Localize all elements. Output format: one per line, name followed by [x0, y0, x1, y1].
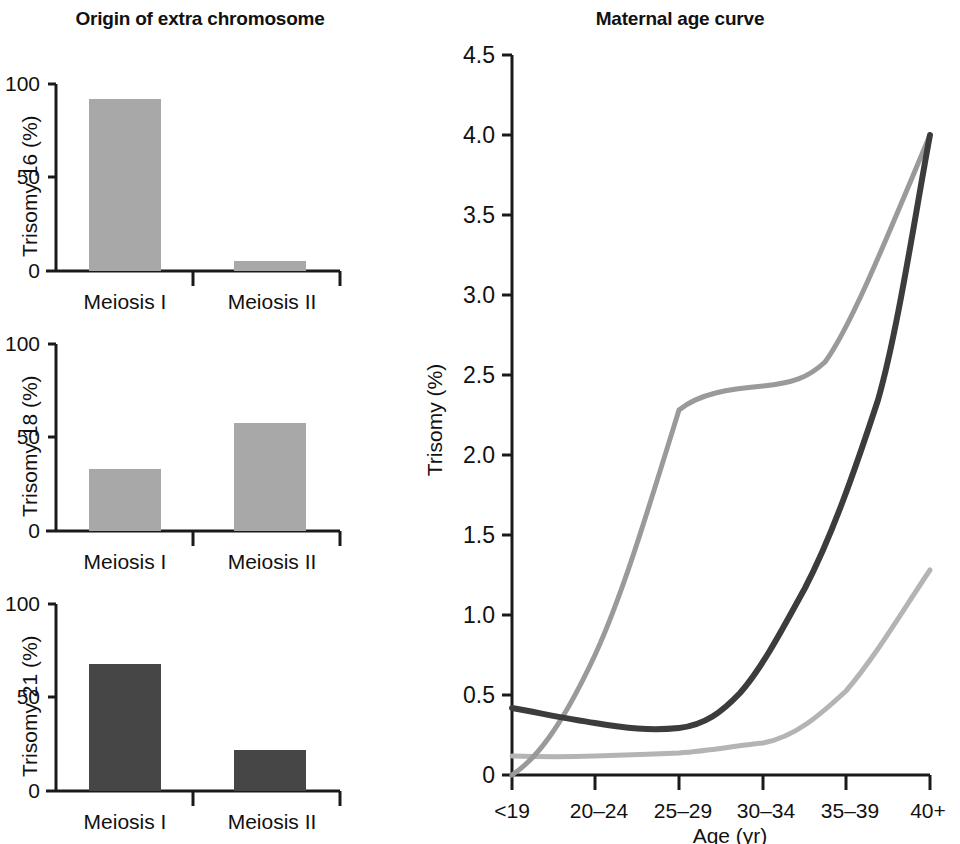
bar-chart-trisomy16: 0 50 100 Meiosis I Meiosis II Trisomy 16…: [0, 52, 400, 312]
panel-origin-of-extra-chromosome: Origin of extra chromosome 0 50 100 Meio…: [0, 0, 400, 844]
bar-chart-trisomy18: 0 50 100 Meiosis I Meiosis II Trisomy 18…: [0, 312, 400, 572]
y-axis-label-trisomy: Trisomy (%): [423, 364, 446, 476]
bar-meiosis-2: [234, 423, 306, 531]
ytick-label-4-0: 4.0: [463, 122, 495, 148]
ytick-label-1-5: 1.5: [463, 522, 495, 548]
ytick-label-3-0: 3.0: [463, 282, 495, 308]
bar-chart-trisomy21-svg: 0 50 100 Meiosis I Meiosis II: [0, 572, 400, 832]
y-axis-label-trisomy16: Trisomy 16 (%): [18, 115, 42, 257]
xtick-label-30-34: 30–34: [737, 799, 796, 822]
category-label-meiosis-1: Meiosis I: [84, 550, 167, 572]
bar-chart-trisomy18-svg: 0 50 100 Meiosis I Meiosis II: [0, 312, 400, 572]
curve-dark: [512, 135, 930, 729]
panel-title-maternal: Maternal age curve: [400, 8, 960, 30]
bar-chart-trisomy21: 0 50 100 Meiosis I Meiosis II Trisomy 21…: [0, 572, 400, 832]
xtick-label-25-29: 25–29: [654, 799, 712, 822]
curve-pale: [512, 570, 930, 757]
ytick-label-0: 0: [28, 259, 40, 282]
y-axis-label-trisomy21: Trisomy 21 (%): [18, 635, 42, 777]
figure-root: Origin of extra chromosome 0 50 100 Meio…: [0, 0, 960, 844]
ytick-label-0: 0: [482, 762, 495, 788]
xtick-label-40plus: 40+: [910, 799, 946, 822]
ytick-label-100: 100: [5, 72, 40, 95]
ytick-label-0-5: 0.5: [463, 682, 495, 708]
ytick-label-2-5: 2.5: [463, 362, 495, 388]
ytick-label-0: 0: [28, 779, 40, 802]
line-chart-maternal-age-svg: 4.5 4.0 3.5 3.0 2.5 2.0 1.5 1.0 0.5 0: [400, 0, 960, 844]
panel-maternal-age-curve: Maternal age curve 4.5 4.0 3.5 3.0 2.5 2…: [400, 0, 960, 844]
category-label-meiosis-2: Meiosis II: [228, 290, 317, 312]
xtick-label-35-39: 35–39: [821, 799, 879, 822]
ytick-label-4-5: 4.5: [463, 42, 495, 68]
y-axis-label-trisomy18: Trisomy 18 (%): [18, 375, 42, 517]
bar-meiosis-2: [234, 261, 306, 271]
ytick-label-3-5: 3.5: [463, 202, 495, 228]
bar-meiosis-1: [89, 469, 161, 531]
panel-title-origin: Origin of extra chromosome: [0, 8, 418, 30]
category-label-meiosis-1: Meiosis I: [84, 810, 167, 832]
category-label-meiosis-2: Meiosis II: [228, 550, 317, 572]
ytick-label-100: 100: [5, 592, 40, 615]
curve-mid: [512, 135, 930, 775]
ytick-label-100: 100: [5, 332, 40, 355]
ytick-label-2-0: 2.0: [463, 442, 495, 468]
category-label-meiosis-1: Meiosis I: [84, 290, 167, 312]
x-axis-label-age: Age (yr): [693, 824, 768, 844]
ytick-label-0: 0: [28, 519, 40, 542]
ytick-label-1-0: 1.0: [463, 602, 495, 628]
bar-meiosis-1: [89, 99, 161, 271]
category-label-meiosis-2: Meiosis II: [228, 810, 317, 832]
bar-meiosis-2: [234, 750, 306, 791]
bar-chart-trisomy16-svg: 0 50 100 Meiosis I Meiosis II: [0, 52, 400, 312]
xtick-label-lt19: <19: [494, 799, 530, 822]
bar-meiosis-1: [89, 664, 161, 791]
xtick-label-20-24: 20–24: [570, 799, 629, 822]
